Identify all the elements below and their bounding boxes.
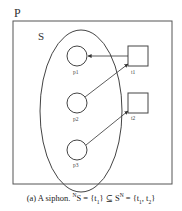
transition-t2-label: t2	[131, 115, 136, 121]
caption-text: S = {t	[76, 193, 96, 203]
place-p2	[67, 93, 87, 113]
figure-caption: (a) A siphon. NS = {t1} ⊆ SN = {t1, t2}	[0, 192, 182, 205]
transition-t2	[128, 93, 148, 113]
place-p2-label: p2	[73, 116, 79, 122]
transition-t1	[128, 46, 148, 66]
caption-text: = {t	[124, 193, 140, 203]
place-p3-label: p3	[73, 162, 79, 168]
arc-p3-to-t2	[86, 111, 128, 145]
place-p3	[67, 140, 87, 160]
transition-t1-label: t1	[131, 69, 136, 75]
outer-label-p: P	[14, 6, 21, 20]
siphon-set-ellipse	[40, 30, 122, 192]
caption-text: } ⊆ S	[99, 193, 119, 203]
caption-prefix: (a) A siphon.	[27, 193, 73, 203]
siphon-diagram: P S p1 p2 p3 t1 t2	[0, 0, 182, 211]
caption-text: }	[151, 193, 155, 203]
place-p1-label: p1	[73, 69, 79, 75]
arc-p2-to-t1	[85, 64, 128, 97]
set-label-s: S	[38, 30, 44, 42]
place-p1	[67, 46, 87, 66]
